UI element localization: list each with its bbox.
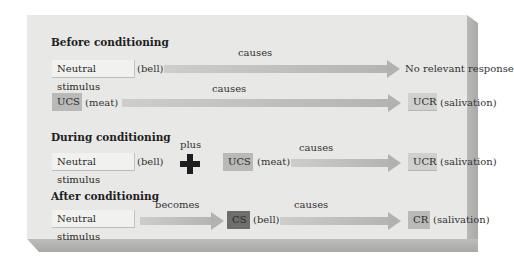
causes-arrow [164,62,400,76]
ucr-box: UCR [408,93,437,111]
arrow-label-causes: causes [294,199,328,210]
ucr-note-salivation: (salivation) [440,156,497,167]
ucs-note-meat: (meat) [257,156,290,167]
cr-box: CR [408,211,430,229]
panel-bevel-right [467,15,478,239]
neutral-stimulus-box: Neutral stimulus [52,210,135,228]
becomes-label: becomes [155,199,199,210]
heading-during-conditioning: During conditioning [51,131,171,143]
cs-note-bell: (bell) [253,214,280,225]
arrow-label-causes: causes [238,47,272,58]
ucs-note-meat: (meat) [85,97,118,108]
heading-after-conditioning: After conditioning [51,190,159,202]
no-relevant-response-text: No relevant response [405,63,514,74]
stimulus-note-bell: (bell) [137,156,164,167]
stimulus-note-bell: (bell) [137,63,164,74]
ucs-box: UCS [52,93,82,111]
causes-arrow [122,96,401,110]
heading-before-conditioning: Before conditioning [51,36,169,48]
neutral-stimulus-box: Neutral stimulus [52,153,135,171]
ucr-note-salivation: (salivation) [440,97,497,108]
arrow-label-causes: causes [212,83,246,94]
arrow-label-causes: causes [299,142,333,153]
cs-box: CS [227,211,250,229]
ucr-box: UCR [408,153,437,171]
causes-arrow [280,214,401,228]
neutral-stimulus-box: Neutral stimulus [52,60,135,78]
causes-arrow [291,156,401,170]
cr-note-salivation: (salivation) [433,214,490,225]
plus-icon [180,154,200,174]
ucs-box: UCS [223,153,253,171]
plus-label: plus [180,139,201,150]
becomes-arrow [140,214,224,228]
